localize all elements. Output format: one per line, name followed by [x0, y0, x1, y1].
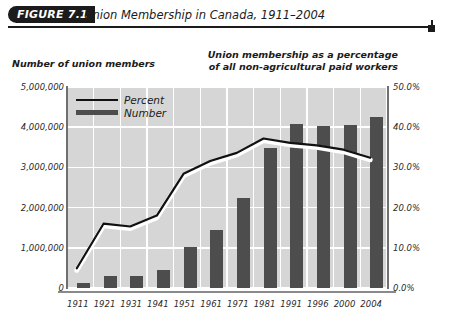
legend-bar-swatch-icon — [76, 110, 118, 115]
legend-line-swatch-icon — [76, 99, 118, 101]
x-tick-1951: 1951 — [174, 299, 196, 309]
legend-item-number: Number — [76, 106, 166, 119]
percent-line-path — [77, 139, 370, 269]
right-axis-line — [387, 86, 389, 289]
left-tick-1000000: 1,000,000 — [2, 243, 64, 253]
right-tick-0: 0.0% — [393, 283, 450, 293]
right-tick-50: 50.0% — [393, 82, 450, 92]
right-tick-20: 20.0% — [393, 203, 450, 213]
left-tick-4000000: 4,000,000 — [2, 122, 64, 132]
right-tick-10: 10.0% — [393, 243, 450, 253]
figure-header: FIGURE 7.1 Union Membership in Canada, 1… — [8, 6, 442, 28]
header-rule — [8, 26, 434, 28]
x-tick-1991: 1991 — [280, 299, 302, 309]
right-axis-caption-line1: Union membership as a percentage — [208, 49, 398, 61]
x-tick-1996: 1996 — [307, 299, 329, 309]
legend-label-number: Number — [124, 107, 166, 119]
left-tick-3000000: 3,000,000 — [2, 162, 64, 172]
right-axis-caption-line2: of all non-agricultural paid workers — [208, 61, 398, 73]
x-tick-1941: 1941 — [147, 299, 169, 309]
bottom-axis-line — [58, 291, 396, 293]
right-tick-30: 30.0% — [393, 162, 450, 172]
left-axis-line — [66, 86, 68, 289]
x-tick-2000: 2000 — [334, 299, 356, 309]
x-tick-1931: 1931 — [120, 299, 142, 309]
percent-line-halo — [77, 141, 370, 271]
x-tick-1971: 1971 — [227, 299, 249, 309]
left-tick-5000000: 5,000,000 — [2, 82, 64, 92]
chart-legend: Percent Number — [76, 93, 166, 119]
figure-container: FIGURE 7.1 Union Membership in Canada, 1… — [0, 0, 450, 321]
left-axis-tick-labels: 01,000,0002,000,0003,000,0004,000,0005,0… — [0, 0, 64, 321]
left-tick-0: 0 — [2, 283, 64, 293]
right-tick-40: 40.0% — [393, 122, 450, 132]
x-tick-1981: 1981 — [254, 299, 276, 309]
left-tick-2000000: 2,000,000 — [2, 203, 64, 213]
figure-title: Union Membership in Canada, 1911–2004 — [84, 6, 325, 23]
right-axis-caption: Union membership as a percentage of all … — [208, 49, 398, 73]
legend-item-percent: Percent — [76, 93, 166, 106]
x-tick-1961: 1961 — [200, 299, 222, 309]
x-tick-1911: 1911 — [67, 299, 89, 309]
x-tick-2004: 2004 — [360, 299, 382, 309]
right-axis-tick-labels: 0.0%10.0%20.0%30.0%40.0%50.0% — [393, 0, 450, 321]
x-tick-1921: 1921 — [94, 299, 116, 309]
legend-label-percent: Percent — [124, 94, 164, 106]
